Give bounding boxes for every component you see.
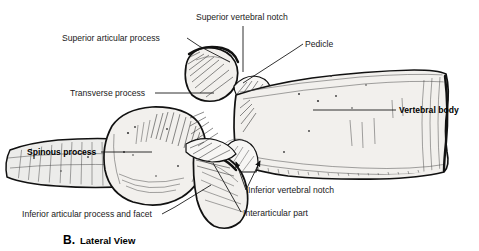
vertebra-illustration: Superior articular process Superior vert…: [0, 0, 479, 251]
label-inferior-articular-process-and-facet: Inferior articular process and facet: [22, 209, 153, 219]
caption-letter: B.: [63, 233, 75, 247]
label-superior-articular-process: Superior articular process: [62, 33, 160, 43]
vertebral-body-shape: [234, 70, 448, 180]
figure-lateral-view-vertebra: Superior articular process Superior vert…: [0, 0, 479, 251]
label-spinous-process: Spinous process: [27, 147, 96, 157]
label-superior-vertebral-notch: Superior vertebral notch: [196, 12, 288, 22]
label-vertebral-body: Vertebral body: [399, 105, 459, 115]
figure-caption: B. Lateral View: [63, 233, 136, 247]
caption-text: Lateral View: [80, 235, 136, 246]
label-pedicle: Pedicle: [305, 39, 333, 49]
leader-pedicle: [243, 44, 303, 83]
label-transverse-process: Transverse process: [70, 88, 145, 98]
label-interarticular-part: Interarticular part: [243, 208, 309, 218]
label-inferior-vertebral-notch: Inferior vertebral notch: [248, 185, 334, 195]
